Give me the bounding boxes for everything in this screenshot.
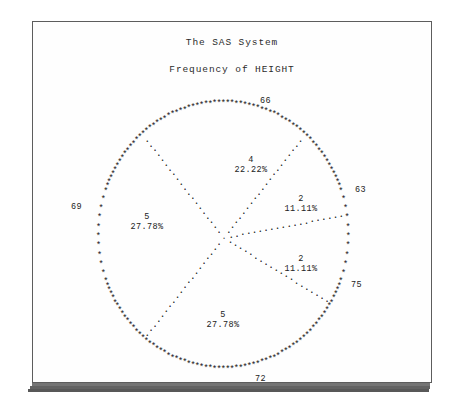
pie-slice-frequency: 2 (271, 194, 331, 204)
pie-slice-percent: 27.78% (193, 320, 253, 330)
pie-rim-mark: * (216, 100, 221, 108)
pie-separator-mark: . (252, 227, 257, 235)
pie-separator-mark: . (275, 223, 280, 231)
pie-slice-percent: 11.11% (271, 264, 331, 274)
stack-layer-4 (28, 389, 429, 392)
printout-page: The SAS System Frequency of HEIGHT *****… (32, 21, 432, 383)
pie-separator-mark: . (325, 296, 330, 304)
pie-separator-mark: . (339, 211, 344, 219)
pie-rim-mark: * (221, 100, 226, 108)
pie-slice-label: 211.11% (271, 194, 331, 214)
pie-separator-mark: . (258, 226, 263, 234)
pie-rim-mark: * (97, 252, 102, 260)
pie-separator-mark: . (246, 228, 251, 236)
ascii-pie-chart: ****************************************… (33, 22, 433, 384)
pie-separator-mark: . (292, 220, 297, 228)
pie-rim-mark: * (345, 252, 350, 260)
pie-rim-mark: * (343, 261, 348, 269)
pie-slice-percent: 22.22% (221, 165, 281, 175)
pie-slice-frequency: 5 (193, 310, 253, 320)
pie-separator-mark: . (145, 330, 150, 338)
pie-separator-mark: . (310, 216, 315, 224)
pie-separator-mark: . (327, 213, 332, 221)
pie-rim-mark: * (341, 270, 346, 278)
pie-rim-mark: * (230, 100, 235, 108)
pie-rim-mark: * (345, 242, 350, 250)
pie-rim-mark: * (212, 100, 217, 108)
pie-rim-mark: * (225, 100, 230, 108)
pie-separator-mark: . (316, 215, 321, 223)
pie-separator-mark: . (264, 225, 269, 233)
pie-rim-mark: * (96, 224, 101, 232)
pie-rim-mark: * (99, 205, 104, 213)
pie-separator-mark: . (333, 212, 338, 220)
pie-rim-mark: * (338, 278, 343, 286)
pie-rim-mark: * (96, 233, 101, 241)
pie-category-tick: 72 (255, 374, 266, 384)
pie-rim-mark: * (234, 101, 239, 109)
pie-separator-mark: . (304, 218, 309, 226)
pie-slice-label: 527.78% (117, 212, 177, 232)
pie-rim-mark: * (345, 214, 350, 222)
pie-category-tick: 69 (71, 202, 82, 212)
pie-rim-mark: * (346, 233, 351, 241)
pie-rim-mark: * (101, 270, 106, 278)
pie-separator-mark: . (281, 222, 286, 230)
pie-separator-mark: . (240, 229, 245, 237)
pie-rim-mark: * (345, 224, 350, 232)
pie-separator-mark: . (298, 219, 303, 227)
pie-slice-frequency: 5 (117, 212, 177, 222)
pie-separator-mark: . (269, 224, 274, 232)
pie-rim-mark: * (103, 188, 108, 196)
pie-separator-mark: . (235, 231, 240, 239)
pie-separator-mark: . (287, 221, 292, 229)
pie-category-tick: 66 (260, 96, 271, 106)
pie-slice-label: 211.11% (271, 254, 331, 274)
pie-center-mark: . (221, 233, 226, 241)
pie-rim-mark: * (99, 261, 104, 269)
pie-category-tick: 75 (351, 280, 362, 290)
pie-slice-percent: 27.78% (117, 222, 177, 232)
pie-separator-mark: . (145, 136, 150, 144)
pie-rim-mark: * (341, 196, 346, 204)
pie-separator-mark: . (321, 214, 326, 222)
pie-slice-label: 422.22% (221, 155, 281, 175)
pie-rim-mark: * (343, 205, 348, 213)
pie-rim-mark: * (96, 242, 101, 250)
pie-slice-label: 527.78% (193, 310, 253, 330)
pie-slice-frequency: 2 (271, 254, 331, 264)
pie-slice-frequency: 4 (221, 155, 281, 165)
pie-rim-mark: * (97, 214, 102, 222)
pie-separator-mark: . (298, 136, 303, 144)
pie-rim-mark: * (101, 196, 106, 204)
pie-category-tick: 63 (355, 185, 366, 195)
pie-slice-percent: 11.11% (271, 204, 331, 214)
